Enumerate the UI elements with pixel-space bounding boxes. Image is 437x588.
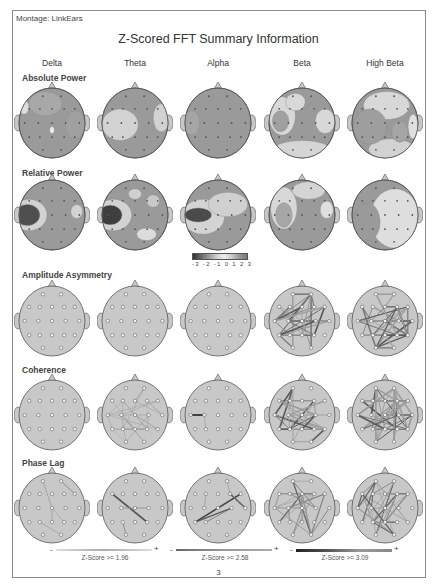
head-map-phase-lag-theta <box>97 465 173 549</box>
head-map-absolute-power-delta <box>14 80 90 164</box>
page-title: Z-Scored FFT Summary Information <box>0 32 437 46</box>
head-map-amplitude-asymmetry-theta <box>97 278 173 362</box>
head-map-relative-power-delta <box>14 172 90 256</box>
head-map-coherence-high-beta <box>347 372 423 456</box>
montage-value: LinkEars <box>52 14 83 23</box>
head-map-amplitude-asymmetry-delta <box>14 278 90 362</box>
head-map-amplitude-asymmetry-beta <box>264 278 340 362</box>
head-map-relative-power-alpha <box>180 172 256 256</box>
head-map-amplitude-asymmetry-alpha <box>180 278 256 362</box>
head-map-absolute-power-alpha <box>180 80 256 164</box>
head-map-phase-lag-alpha <box>180 465 256 549</box>
montage-info: Montage: LinkEars <box>16 14 83 23</box>
column-header-beta: Beta <box>262 58 342 68</box>
head-map-absolute-power-theta <box>97 80 173 164</box>
head-map-relative-power-theta <box>97 172 173 256</box>
head-map-coherence-beta <box>264 372 340 456</box>
column-header-delta: Delta <box>12 58 92 68</box>
column-header-theta: Theta <box>95 58 175 68</box>
color-scale-ticks: -3 -2 -1 0 1 2 3 <box>192 261 252 267</box>
head-map-absolute-power-high-beta <box>347 80 423 164</box>
head-map-coherence-alpha <box>180 372 256 456</box>
head-map-phase-lag-beta <box>264 465 340 549</box>
legend-line <box>176 549 272 551</box>
head-map-relative-power-high-beta <box>347 172 423 256</box>
montage-label: Montage: <box>16 14 49 23</box>
head-map-phase-lag-high-beta <box>347 465 423 549</box>
color-scale-bar <box>192 253 248 260</box>
head-map-phase-lag-delta <box>14 465 90 549</box>
head-map-coherence-delta <box>14 372 90 456</box>
legend-line <box>296 549 392 552</box>
head-map-amplitude-asymmetry-high-beta <box>347 278 423 362</box>
head-map-absolute-power-beta <box>264 80 340 164</box>
column-header-alpha: Alpha <box>178 58 258 68</box>
head-map-relative-power-beta <box>264 172 340 256</box>
legend-line <box>56 549 152 551</box>
color-scale: -3 -2 -1 0 1 2 3 <box>192 253 252 267</box>
page-number: 3 <box>0 568 437 577</box>
column-header-high-beta: High Beta <box>345 58 425 68</box>
head-map-coherence-theta <box>97 372 173 456</box>
